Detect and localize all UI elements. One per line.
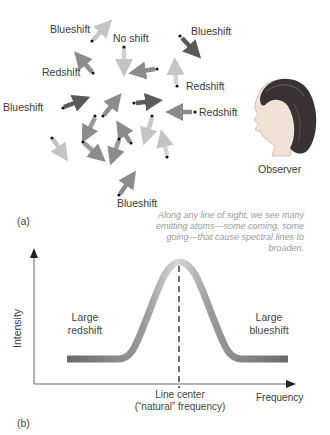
large-blueshift-line2: blueshift [245, 324, 293, 337]
atom-arrows [53, 26, 195, 194]
observer-head-illustration [254, 79, 316, 156]
y-axis-label: Intensity [12, 309, 23, 348]
label-blueshift-top-left: Blueshift [50, 24, 90, 35]
label-blueshift-bottom: Blueshift [117, 198, 157, 209]
large-blueshift-line1: Large [245, 311, 293, 324]
panel-a-tag: (a) [17, 215, 30, 227]
label-redshift-right-upper: Redshift [186, 81, 225, 92]
large-redshift-line2: redshift [64, 324, 106, 337]
label-no-shift: No shift [113, 33, 149, 44]
label-redshift-right: Redshift [199, 107, 238, 118]
caption-text: Along any line of sight, we see many emi… [144, 210, 304, 254]
label-blueshift-top-right: Blueshift [191, 26, 231, 37]
large-redshift-line1: Large [64, 311, 106, 324]
line-center-line1: Line center [124, 389, 236, 401]
panel-b-tag: (b) [17, 417, 30, 429]
large-blueshift-label: Large blueshift [245, 311, 293, 337]
label-blueshift-left: Blueshift [3, 102, 43, 113]
large-redshift-label: Large redshift [64, 311, 106, 337]
label-redshift-left: Redshift [42, 67, 81, 78]
line-center-label: Line center (“natural” frequency) [124, 389, 236, 413]
observer-label: Observer [258, 164, 301, 175]
x-axis-label: Frequency [256, 393, 303, 403]
line-center-line2: (“natural” frequency) [124, 401, 236, 413]
